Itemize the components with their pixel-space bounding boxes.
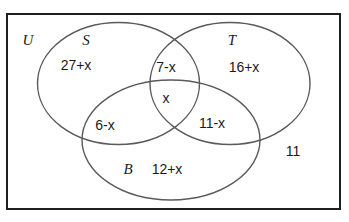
region-value-s-and-b-only: 6-x bbox=[95, 117, 114, 133]
region-value-outside-all: 11 bbox=[286, 143, 301, 159]
region-value-b-only: 12+x bbox=[152, 161, 183, 177]
region-value-t-and-b-only: 11-x bbox=[199, 115, 225, 131]
set-s-ellipse bbox=[38, 23, 200, 145]
set-b-ellipse bbox=[82, 80, 260, 200]
venn-diagram-svg: U S T B 27+x 7-x 16+x x 6-x 11-x 12+x 11 bbox=[0, 0, 349, 222]
region-value-s-and-t-only: 7-x bbox=[156, 59, 175, 75]
set-label-t: T bbox=[228, 32, 238, 48]
region-value-t-only: 16+x bbox=[229, 59, 260, 75]
set-label-s: S bbox=[82, 32, 90, 48]
region-value-all-three: x bbox=[163, 90, 170, 106]
universe-label: U bbox=[23, 32, 35, 48]
venn-diagram-canvas: U S T B 27+x 7-x 16+x x 6-x 11-x 12+x 11 bbox=[0, 0, 349, 222]
region-value-s-only: 27+x bbox=[61, 57, 92, 73]
set-label-b: B bbox=[123, 161, 132, 177]
